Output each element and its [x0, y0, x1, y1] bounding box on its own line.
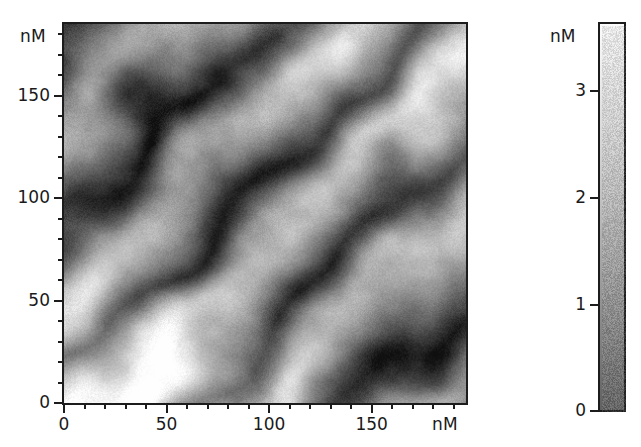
colorbar-tick: [590, 90, 599, 92]
colorbar-tick: [590, 410, 599, 412]
y-tick-minor: [58, 115, 63, 117]
colorbar-tick: [590, 197, 599, 199]
y-tick-label: 50: [8, 290, 50, 310]
y-tick-minor: [58, 177, 63, 179]
y-tick-minor: [58, 156, 63, 158]
y-tick-major: [54, 300, 63, 302]
x-tick-minor: [391, 404, 393, 409]
y-tick-minor: [58, 238, 63, 240]
x-tick-major: [166, 404, 168, 413]
x-tick-minor: [309, 404, 311, 409]
y-tick-minor: [58, 54, 63, 56]
x-tick-minor: [104, 404, 106, 409]
x-tick-major: [371, 404, 373, 413]
x-tick-minor: [145, 404, 147, 409]
x-tick-label: 0: [34, 414, 94, 434]
x-tick-major: [63, 404, 65, 413]
x-tick-label: 150: [342, 414, 402, 434]
x-tick-minor: [412, 404, 414, 409]
x-tick-minor: [432, 404, 434, 409]
colorbar-texture: [602, 26, 626, 412]
x-tick-minor: [125, 404, 127, 409]
x-tick-label: 50: [137, 414, 197, 434]
x-tick-label: 100: [239, 414, 299, 434]
y-tick-minor: [58, 33, 63, 35]
colorbar-tick-label: 3: [558, 80, 586, 100]
figure-container: nM 050100150 nM 050100150 nM 0123: [0, 0, 641, 447]
x-tick-minor: [350, 404, 352, 409]
y-tick-minor: [58, 74, 63, 76]
y-tick-minor: [58, 279, 63, 281]
colorbar-tick: [590, 304, 599, 306]
x-tick-minor: [84, 404, 86, 409]
x-tick-major: [268, 404, 270, 413]
x-tick-minor: [330, 404, 332, 409]
x-tick-minor: [207, 404, 209, 409]
colorbar-gradient: [598, 22, 626, 412]
x-tick-minor: [227, 404, 229, 409]
x-tick-minor: [186, 404, 188, 409]
x-tick-minor: [453, 404, 455, 409]
x-tick-minor: [289, 404, 291, 409]
y-tick-minor: [58, 341, 63, 343]
y-tick-minor: [58, 361, 63, 363]
x-axis-unit-label: nM: [432, 414, 458, 434]
x-tick-minor: [248, 404, 250, 409]
y-tick-minor: [58, 382, 63, 384]
y-tick-major: [54, 197, 63, 199]
y-tick-major: [54, 402, 63, 404]
y-tick-minor: [58, 320, 63, 322]
colorbar-tick-label: 0: [558, 400, 586, 420]
y-axis-unit-label: nM: [20, 26, 46, 46]
y-tick-major: [54, 95, 63, 97]
y-tick-minor: [58, 218, 63, 220]
colorbar-tick-label: 1: [558, 294, 586, 314]
y-tick-label: 150: [8, 85, 50, 105]
heatmap-plot-area[interactable]: [62, 22, 468, 405]
y-tick-minor: [58, 259, 63, 261]
y-tick-label: 100: [8, 187, 50, 207]
colorbar-unit-label: nM: [550, 26, 575, 46]
heatmap-image: [64, 24, 466, 403]
colorbar-tick-label: 2: [558, 187, 586, 207]
y-tick-label: 0: [8, 392, 50, 412]
y-tick-minor: [58, 136, 63, 138]
